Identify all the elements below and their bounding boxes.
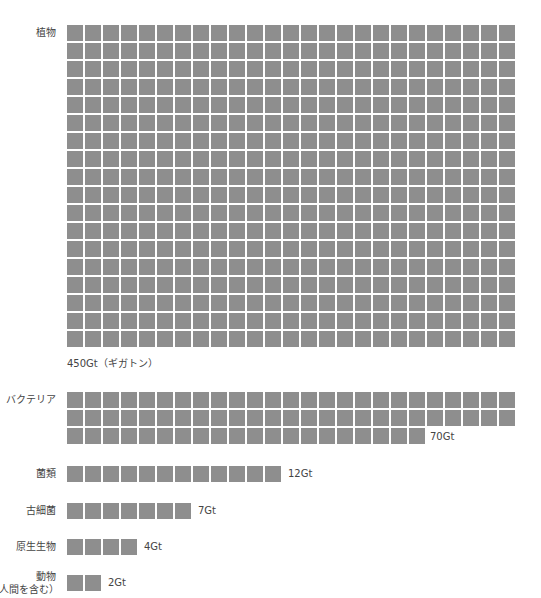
waffle-square	[463, 223, 479, 239]
waffle-square	[193, 169, 209, 185]
waffle-square	[481, 295, 497, 311]
waffle-square	[193, 115, 209, 131]
waffle-square	[229, 428, 245, 444]
waffle-square	[355, 25, 371, 41]
waffle-square	[67, 25, 83, 41]
waffle-square	[103, 313, 119, 329]
waffle-square	[211, 392, 227, 408]
waffle-square	[265, 223, 281, 239]
waffle-square	[103, 259, 119, 275]
waffle-square	[211, 25, 227, 41]
waffle-square	[247, 115, 263, 131]
waffle-square	[265, 25, 281, 41]
waffle-square	[463, 392, 479, 408]
waffle-square	[85, 428, 101, 444]
waffle-square	[301, 331, 317, 347]
waffle-square	[319, 187, 335, 203]
waffle-square	[121, 205, 137, 221]
waffle-square	[265, 97, 281, 113]
waffle-square	[409, 331, 425, 347]
waffle-square	[193, 331, 209, 347]
waffle-square	[283, 151, 299, 167]
waffle-square	[373, 25, 389, 41]
waffle-square	[463, 295, 479, 311]
waffle-square	[175, 151, 191, 167]
waffle-square	[427, 295, 443, 311]
waffle-square	[247, 277, 263, 293]
waffle-square	[175, 79, 191, 95]
waffle-protists	[67, 539, 517, 555]
waffle-square	[229, 259, 245, 275]
waffle-square	[445, 169, 461, 185]
waffle-square	[121, 169, 137, 185]
waffle-square	[175, 428, 191, 444]
waffle-square	[301, 223, 317, 239]
waffle-square	[283, 313, 299, 329]
waffle-square	[463, 115, 479, 131]
waffle-square	[211, 410, 227, 426]
waffle-square	[391, 61, 407, 77]
waffle-square	[445, 313, 461, 329]
waffle-square	[157, 79, 173, 95]
waffle-square	[499, 295, 515, 311]
waffle-square	[247, 410, 263, 426]
waffle-square	[85, 331, 101, 347]
waffle-square	[391, 115, 407, 131]
waffle-square	[409, 187, 425, 203]
waffle-square	[445, 392, 461, 408]
waffle-square	[337, 259, 353, 275]
waffle-square	[211, 79, 227, 95]
waffle-square	[265, 169, 281, 185]
waffle-square	[85, 169, 101, 185]
waffle-square	[67, 331, 83, 347]
waffle-square	[193, 392, 209, 408]
waffle-square	[211, 205, 227, 221]
waffle-square	[319, 331, 335, 347]
waffle-square	[157, 223, 173, 239]
waffle-square	[427, 241, 443, 257]
waffle-square	[499, 277, 515, 293]
waffle-square	[175, 503, 191, 519]
waffle-square	[301, 392, 317, 408]
waffle-square	[121, 151, 137, 167]
waffle-square	[427, 259, 443, 275]
waffle-square	[337, 79, 353, 95]
waffle-square	[337, 169, 353, 185]
label-animals-note: （人間を含む）	[0, 584, 59, 596]
waffle-square	[391, 151, 407, 167]
waffle-square	[193, 466, 209, 482]
waffle-square	[319, 151, 335, 167]
waffle-square	[247, 313, 263, 329]
waffle-square	[229, 466, 245, 482]
waffle-square	[301, 428, 317, 444]
waffle-square	[67, 466, 83, 482]
waffle-square	[229, 133, 245, 149]
waffle-square	[85, 43, 101, 59]
waffle-square	[445, 259, 461, 275]
waffle-square	[283, 61, 299, 77]
waffle-square	[157, 169, 173, 185]
waffle-square	[103, 241, 119, 257]
waffle-square	[211, 133, 227, 149]
waffle-square	[373, 169, 389, 185]
waffle-square	[427, 313, 443, 329]
waffle-square	[139, 392, 155, 408]
waffle-square	[229, 331, 245, 347]
waffle-square	[463, 331, 479, 347]
waffle-square	[265, 133, 281, 149]
waffle-square	[481, 410, 497, 426]
waffle-square	[391, 259, 407, 275]
waffle-square	[283, 79, 299, 95]
waffle-square	[499, 410, 515, 426]
waffle-square	[85, 295, 101, 311]
waffle-square	[229, 295, 245, 311]
waffle-square	[391, 133, 407, 149]
waffle-square	[265, 428, 281, 444]
waffle-square	[427, 151, 443, 167]
waffle-square	[445, 25, 461, 41]
waffle-square	[139, 428, 155, 444]
waffle-square	[283, 169, 299, 185]
waffle-square	[355, 277, 371, 293]
waffle-square	[481, 169, 497, 185]
waffle-square	[319, 428, 335, 444]
